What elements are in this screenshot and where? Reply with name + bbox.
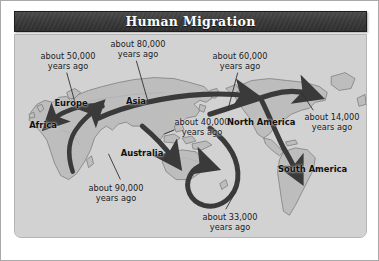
label-europe-50k-line1: about 50,000: [29, 51, 107, 61]
label-americas-14k-line2: years ago: [293, 122, 367, 132]
figure-container: Human Migration: [0, 0, 379, 261]
label-pacific-33k: about 33,000 years ago: [191, 212, 269, 232]
place-label-africa-line1: Africa: [29, 120, 57, 130]
page-title: Human Migration: [125, 14, 255, 29]
label-siberia-60k-line1: about 60,000: [201, 51, 279, 61]
label-africa-90k-line1: about 90,000: [77, 183, 155, 193]
place-label-australia: Australia: [115, 149, 169, 159]
place-label-south-america: South America: [278, 165, 326, 175]
label-siberia-60k-line2: years ago: [201, 61, 279, 71]
label-central-asia-80k: about 80,000 years ago: [99, 39, 177, 59]
place-label-europe: Europe: [47, 99, 95, 109]
label-africa-90k: about 90,000 years ago: [77, 183, 155, 203]
label-americas-14k-line1: about 14,000: [293, 112, 367, 122]
place-label-asia: Asia: [118, 97, 154, 107]
map-panel: about 50,000 years ago about 80,000 year…: [14, 34, 367, 238]
place-label-north-america-line2: America: [257, 117, 296, 127]
label-pacific-33k-line2: years ago: [191, 222, 269, 232]
label-americas-14k: about 14,000 years ago: [293, 112, 367, 132]
place-label-australia-line1: Australia: [121, 148, 164, 158]
label-australia-40k-line2: years ago: [163, 127, 241, 137]
place-label-africa: Africa: [21, 121, 65, 131]
place-label-south-america-line1: South: [278, 164, 306, 174]
label-central-asia-80k-line2: years ago: [99, 49, 177, 59]
place-label-south-america-line2: America: [309, 164, 348, 174]
place-label-north-america-line1: North: [227, 117, 254, 127]
label-central-asia-80k-line1: about 80,000: [99, 39, 177, 49]
label-africa-90k-line2: years ago: [77, 193, 155, 203]
place-label-europe-line1: Europe: [54, 98, 87, 108]
place-label-north-america: North America: [227, 118, 275, 128]
place-label-asia-line1: Asia: [126, 96, 146, 106]
figure-title-bar: Human Migration: [14, 11, 367, 32]
label-europe-50k-line2: years ago: [29, 61, 107, 71]
label-siberia-60k: about 60,000 years ago: [201, 51, 279, 71]
label-pacific-33k-line1: about 33,000: [191, 212, 269, 222]
label-europe-50k: about 50,000 years ago: [29, 51, 107, 71]
